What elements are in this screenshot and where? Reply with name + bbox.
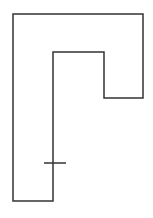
shape-outline	[13, 14, 143, 201]
diagram-canvas	[0, 0, 153, 218]
